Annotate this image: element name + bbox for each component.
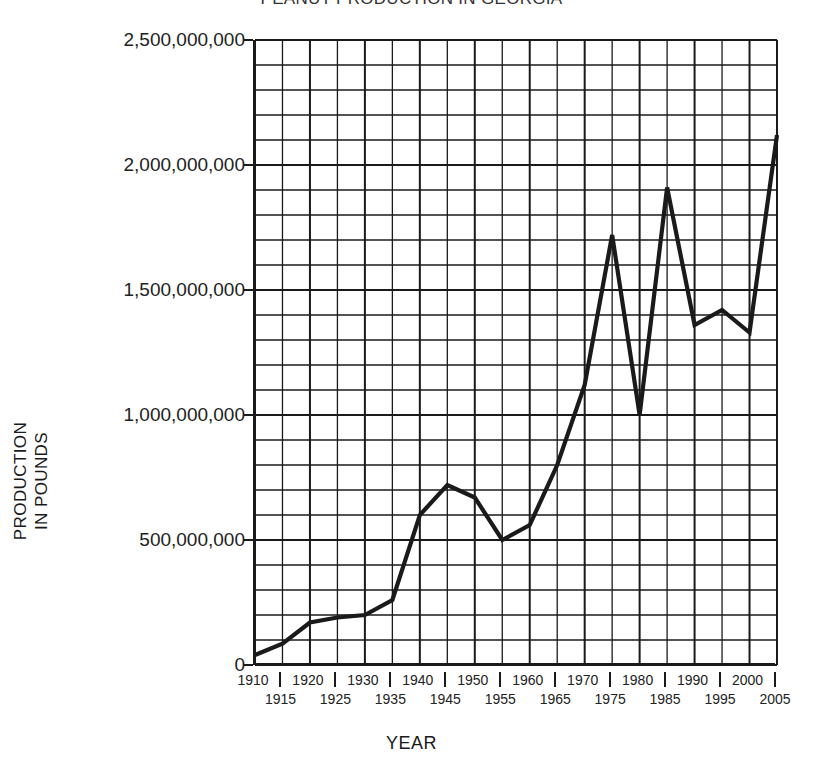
- y-tick-mark: [244, 414, 253, 416]
- x-tick-label: 2005: [759, 691, 790, 707]
- y-axis-title: PRODUCTION IN POUNDS: [10, 381, 52, 581]
- y-tick-mark: [244, 539, 253, 541]
- y-axis-title-line-2: IN POUNDS: [31, 381, 52, 581]
- y-tick-mark: [244, 164, 253, 166]
- x-tick-separator: [719, 672, 721, 687]
- x-tick-separator: [279, 672, 281, 687]
- y-axis-title-line-1: PRODUCTION: [10, 381, 31, 581]
- x-tick-separator: [554, 672, 556, 687]
- x-tick-label: 1990: [677, 672, 708, 688]
- x-tick-separator: [774, 672, 776, 687]
- y-tick-mark: [244, 289, 253, 291]
- x-tick-label: 1950: [457, 672, 488, 688]
- x-tick-label: 1960: [512, 672, 543, 688]
- x-tick-label: 1930: [347, 672, 378, 688]
- y-tick-mark: [244, 39, 253, 41]
- y-tick-mark: [244, 664, 253, 666]
- data-series-line: [255, 40, 777, 665]
- x-axis-title: YEAR: [0, 733, 823, 754]
- x-tick-label: 1935: [375, 691, 406, 707]
- x-tick-label: 1925: [320, 691, 351, 707]
- x-tick-label: 2000: [732, 672, 763, 688]
- x-axis: 1910191519201925193019351940194519501955…: [0, 672, 823, 722]
- x-tick-separator: [334, 672, 336, 687]
- x-tick-label: 1915: [265, 691, 296, 707]
- y-tick-label: 2,500,000,000: [0, 29, 245, 51]
- x-tick-label: 1965: [540, 691, 571, 707]
- x-tick-label: 1955: [485, 691, 516, 707]
- x-tick-label: 1995: [704, 691, 735, 707]
- x-tick-label: 1920: [292, 672, 323, 688]
- x-tick-label: 1970: [567, 672, 598, 688]
- x-tick-label: 1980: [622, 672, 653, 688]
- x-tick-separator: [444, 672, 446, 687]
- x-tick-label: 1910: [237, 672, 268, 688]
- x-tick-separator: [664, 672, 666, 687]
- x-tick-label: 1945: [430, 691, 461, 707]
- y-tick-label: 1,500,000,000: [0, 279, 245, 301]
- x-tick-separator: [499, 672, 501, 687]
- x-tick-label: 1975: [595, 691, 626, 707]
- plot-area: [253, 40, 775, 665]
- x-tick-separator: [609, 672, 611, 687]
- x-tick-separator: [389, 672, 391, 687]
- x-tick-label: 1940: [402, 672, 433, 688]
- x-tick-label: 1985: [650, 691, 681, 707]
- y-tick-label: 2,000,000,000: [0, 154, 245, 176]
